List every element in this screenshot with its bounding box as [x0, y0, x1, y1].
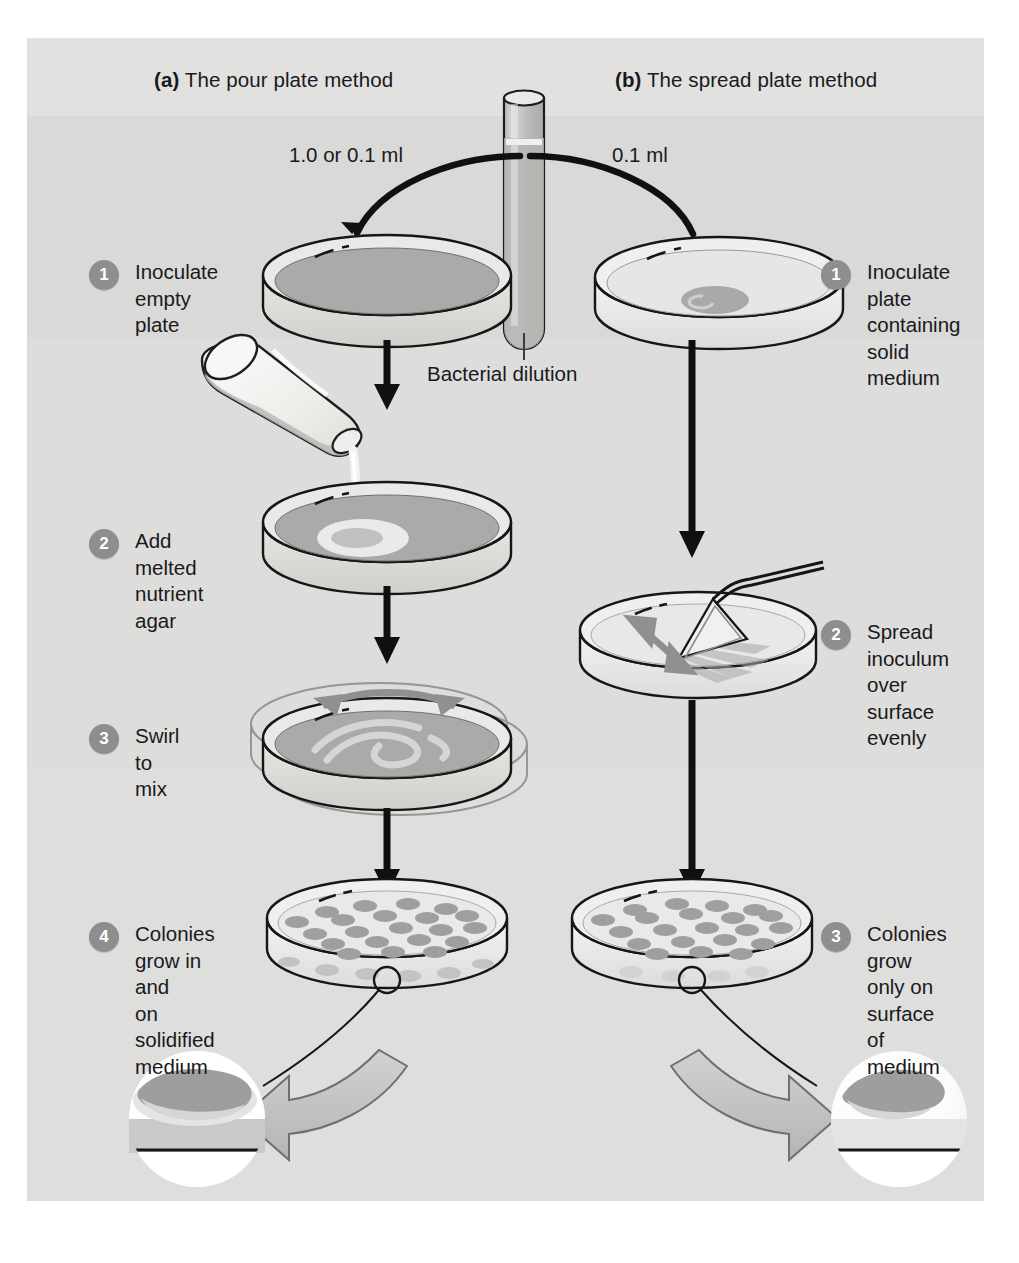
step-text-pour-3: Swirl to mix	[135, 723, 179, 803]
step-badge-spread-3: 3	[821, 922, 851, 952]
panel-a-header: (a) The pour plate method	[154, 68, 393, 92]
panel-b-tag: (b)	[615, 68, 641, 91]
flow-arrow-a-2-3	[374, 586, 400, 664]
volume-label-spread: 0.1 ml	[612, 143, 668, 167]
callout-arrow-pour	[241, 1050, 407, 1160]
step-text-spread-3: Colonies grow only on surface of medium	[867, 921, 947, 1080]
step-text-spread-1: Inoculate plate containing solid medium	[867, 259, 960, 392]
step-badge-spread-2: 2	[821, 620, 851, 650]
panel-a-title: The pour plate method	[185, 68, 393, 91]
test-tube-graphic	[504, 91, 544, 361]
flow-arrow-b-1-2	[679, 340, 705, 558]
plate-pour-step2	[263, 482, 511, 594]
figure-canvas: (a) The pour plate method (b) The spread…	[27, 38, 984, 1201]
step-text-pour-2: Add melted nutrient agar	[135, 528, 203, 634]
panel-b-title: The spread plate method	[647, 68, 877, 91]
step-text-pour-1: Inoculate empty plate	[135, 259, 218, 339]
step-badge-pour-3: 3	[89, 724, 119, 754]
panel-b-header: (b) The spread plate method	[615, 68, 877, 92]
plate-spread-step1	[595, 237, 843, 349]
step-badge-pour-2: 2	[89, 529, 119, 559]
flow-arrow-a-1-2	[374, 340, 400, 410]
step-badge-pour-1: 1	[89, 260, 119, 290]
bacterial-dilution-label: Bacterial dilution	[427, 362, 577, 386]
plate-pour-step1	[263, 235, 511, 347]
flow-arrow-b-2-3	[679, 700, 705, 896]
volume-label-pour: 1.0 or 0.1 ml	[289, 143, 403, 167]
step-text-pour-4: Colonies grow in and on solidified mediu…	[135, 921, 215, 1080]
callout-arrow-spread	[671, 1050, 837, 1160]
plate-spread-step2	[580, 562, 824, 698]
step-badge-spread-1: 1	[821, 260, 851, 290]
plate-pour-step3	[251, 683, 527, 815]
step-badge-pour-4: 4	[89, 922, 119, 952]
panel-a-tag: (a)	[154, 68, 179, 91]
step-text-spread-2: Spread inoculum over surface evenly	[867, 619, 949, 752]
